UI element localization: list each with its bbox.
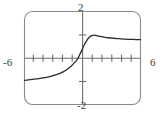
y-max-label: 2 <box>78 2 84 13</box>
y-min-label: -2 <box>77 100 86 111</box>
graph-figure: 2 -2 -6 6 <box>0 0 165 116</box>
x-max-label: 6 <box>150 57 156 68</box>
x-min-label: -6 <box>3 57 12 68</box>
